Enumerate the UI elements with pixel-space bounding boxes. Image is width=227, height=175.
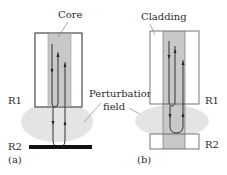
caption-a: (a) — [8, 154, 22, 165]
panel-a: Core R1 R2 (a) — [8, 9, 93, 165]
core-label: Core — [58, 9, 82, 20]
cladding-label: Cladding — [141, 11, 187, 22]
perturbation-label-line2: field — [103, 101, 126, 112]
perturbation-field-a — [21, 102, 93, 142]
fiber-perturbation-diagram: Core R1 R2 (a) Perturbation field Cladd — [0, 0, 227, 175]
caption-b: (b) — [137, 154, 151, 165]
r1-label-b: R1 — [205, 95, 219, 106]
r2-label-a: R2 — [8, 141, 22, 152]
r2-label-b: R2 — [205, 139, 219, 150]
reflector-r2-a — [29, 145, 92, 149]
r1-label-a: R1 — [8, 95, 22, 106]
perturbation-label-line1: Perturbation — [89, 88, 154, 99]
